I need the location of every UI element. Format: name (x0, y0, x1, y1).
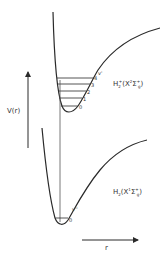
upper-state-label: H2+(X2Σ+g) (113, 79, 144, 89)
level-label-1: 1 (83, 96, 86, 102)
level-label-3: 3 (91, 82, 94, 88)
lower-level-label-0: 0 (69, 217, 72, 223)
level-label-2: 2 (87, 89, 90, 95)
lower-vib-label: v'' (72, 206, 78, 212)
potential-energy-diagram: 4 3 2 1 0 v' H2+(X2Σ+g) 0 v'' H2(X1Σ+g) … (0, 0, 166, 256)
lower-potential-curve (42, 128, 147, 224)
upper-vib-label: v' (98, 70, 102, 76)
level-label-0: 0 (79, 104, 82, 110)
y-axis-label: V(r) (7, 107, 20, 115)
level-label-4: 4 (94, 75, 97, 81)
upper-potential-curve (53, 12, 160, 112)
x-axis-label: r (105, 244, 108, 252)
diagram-svg: 4 3 2 1 0 v' H2+(X2Σ+g) 0 v'' H2(X1Σ+g) … (0, 0, 166, 256)
lower-state-label: H2(X1Σ+g) (113, 187, 142, 197)
